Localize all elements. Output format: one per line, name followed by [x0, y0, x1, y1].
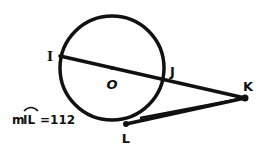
arc-symbol-icon [24, 108, 38, 112]
label-j: J [169, 64, 175, 79]
label-o: O [106, 77, 117, 92]
point-l-dot [123, 121, 129, 127]
secant-ik [60, 56, 245, 98]
label-k: K [243, 79, 254, 94]
point-k-dot [242, 95, 249, 102]
arc-measure-annotation: m IL =112 [12, 108, 75, 128]
geometry-diagram: I O J K L m IL =112 [0, 0, 267, 152]
arc-measure-value: =112 [40, 113, 75, 127]
tangent-lk-thick [140, 98, 245, 118]
point-o-dot [110, 66, 114, 70]
label-l: L [122, 131, 130, 146]
arc-measure-arc-name: IL [23, 113, 35, 127]
label-i: I [47, 49, 53, 64]
